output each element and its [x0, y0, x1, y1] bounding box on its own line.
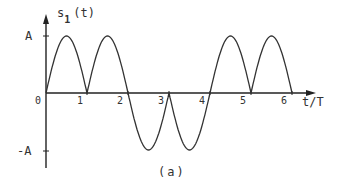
y-axis-label: s1(t) — [57, 7, 95, 19]
y-tick-label-neg-a: -A — [17, 145, 31, 157]
figure: s1(t) A -A 0 1 2 3 4 5 6 t/T (a) — [0, 0, 348, 188]
x-tick-label-3: 3 — [158, 96, 164, 106]
x-tick-label-2: 2 — [117, 96, 123, 106]
x-tick-label-5: 5 — [240, 96, 246, 106]
x-tick-label-6: 6 — [281, 96, 287, 106]
figure-caption: (a) — [158, 166, 186, 178]
y-label-subscript: 1 — [64, 14, 70, 25]
x-axis-label: t/T — [302, 96, 324, 108]
x-tick-label-4: 4 — [199, 96, 205, 106]
y-axis-arrow-icon — [43, 14, 49, 24]
origin-label: 0 — [35, 96, 41, 106]
waveform-plot — [0, 0, 348, 188]
x-tick-label-1: 1 — [77, 96, 83, 106]
y-label-arg: (t) — [73, 6, 95, 20]
y-tick-label-a: A — [25, 30, 32, 42]
